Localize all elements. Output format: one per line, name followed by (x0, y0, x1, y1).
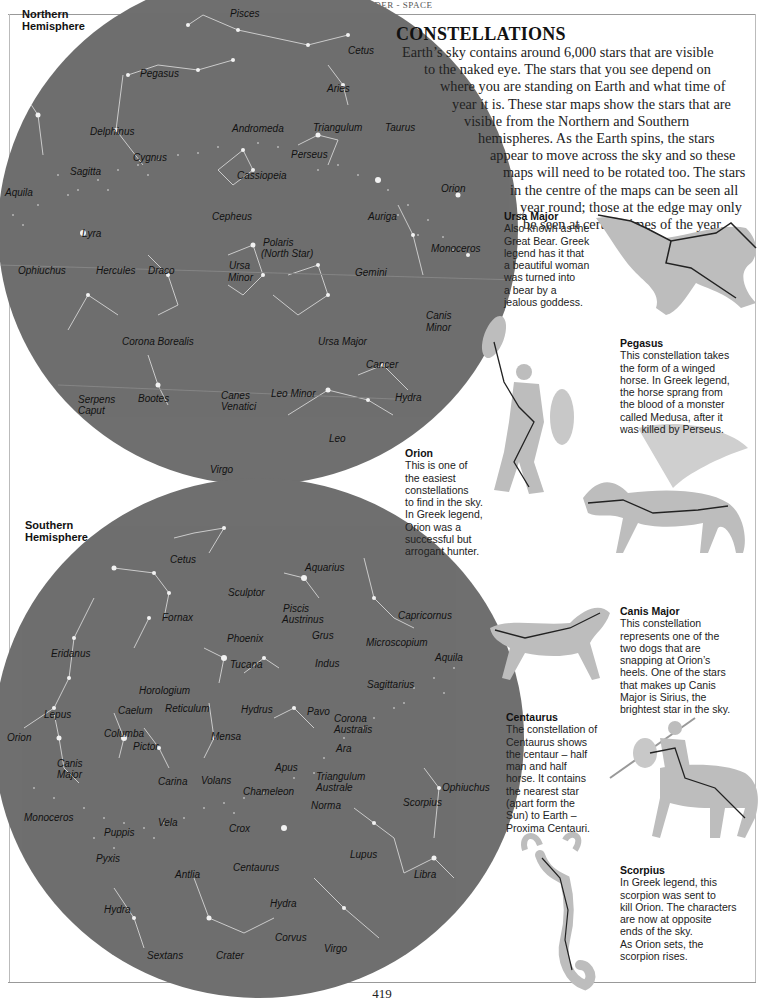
caption-line: the horse sprang from (620, 386, 730, 398)
intro-line: to the naked eye. The stars that you see… (424, 61, 711, 78)
constellation-label: Horologium (139, 685, 190, 696)
constellation-label: Perseus (291, 149, 328, 160)
constellation-label: Sculptor (228, 587, 265, 598)
constellation-label: Pisces (230, 8, 259, 19)
constellation-label: Corvus (275, 932, 307, 943)
intro-line: Earth’s sky contains around 6,000 stars … (402, 44, 714, 61)
constellation-label: Caput (78, 405, 105, 416)
canis-major-dog-illustration (480, 598, 620, 688)
caption-canis-major: Canis MajorThis constellationrepresents … (620, 605, 730, 716)
caption-line: legend has it that (504, 247, 589, 259)
bear-illustration (586, 203, 761, 333)
caption-line: This constellation takes (620, 349, 730, 361)
caption-line: to find in the sky. (405, 496, 483, 508)
constellation-label: Canis (426, 310, 452, 321)
constellation-label: Scorpius (403, 797, 442, 808)
constellation-label: Polaris (263, 237, 294, 248)
constellation-label: Aquila (5, 187, 33, 198)
caption-line: heels. One of the stars (620, 666, 730, 678)
constellation-label: Mensa (211, 731, 241, 742)
constellation-label: Hydra (270, 898, 297, 909)
constellation-label: Norma (311, 800, 341, 811)
caption-centaurus: CentaurusThe constellation ofCentaurus s… (506, 711, 597, 834)
constellation-label: Eridanus (51, 648, 90, 659)
caption-line: that makes up Canis (620, 679, 730, 691)
constellation-label: Leo Minor (271, 388, 315, 399)
constellation-label: Ophiuchus (18, 265, 66, 276)
constellation-label: Aquarius (305, 562, 344, 573)
constellation-label: Reticulum (165, 703, 209, 714)
caption-scorpius: ScorpiusIn Greek legend, thisscorpion wa… (620, 864, 737, 962)
north-label-line1: Northern (22, 8, 85, 20)
caption-pegasus: PegasusThis constellation takesthe form … (620, 337, 730, 435)
constellation-label: Taurus (385, 122, 415, 133)
caption-line: brightest star in the sky. (620, 703, 730, 715)
caption-line: was killed by Perseus. (620, 423, 730, 435)
intro-line: appear to move across the sky and so the… (490, 147, 735, 164)
constellation-label: Ara (336, 743, 352, 754)
constellation-label: Lepus (44, 709, 71, 720)
constellation-label: Pavo (307, 706, 330, 717)
caption-line: jealous goddess. (504, 296, 589, 308)
constellation-label: Austrinus (282, 614, 324, 625)
constellation-label: Centaurus (233, 862, 279, 873)
north-label-line2: Hemisphere (22, 20, 85, 32)
caption-line: Orion was a (405, 521, 483, 533)
caption-title: Ursa Major (504, 210, 589, 222)
intro-line: visible from the Northern and Southern (464, 113, 689, 130)
constellation-label: Monoceros (431, 243, 480, 254)
constellation-label: Tucana (230, 659, 263, 670)
constellation-label: Apus (275, 762, 298, 773)
constellation-label: Antlia (175, 869, 200, 880)
constellation-label: Columba (104, 728, 144, 739)
caption-line: The constellation of (506, 723, 597, 735)
constellation-label: Pictor (133, 741, 159, 752)
constellation-label: Pyxis (96, 853, 120, 864)
caption-line: man and half (506, 760, 597, 772)
intro-line: hemispheres. As the Earth spins, the sta… (478, 130, 715, 147)
constellation-label: Australis (334, 724, 372, 735)
constellation-label: Major (57, 769, 82, 780)
constellation-label: Lyra (82, 228, 101, 239)
caption-line: In Greek legend, (405, 508, 483, 520)
constellation-label: Hydrus (241, 704, 273, 715)
constellation-label: Sextans (147, 950, 183, 961)
constellation-label: Virgo (324, 943, 347, 954)
constellation-label: Corona Borealis (122, 336, 194, 347)
caption-line: successful but (405, 533, 483, 545)
constellation-label: Capricornus (398, 610, 452, 621)
caption-orion: OrionThis is one ofthe easiestconstellat… (405, 447, 483, 558)
caption-line: the centaur – half (506, 748, 597, 760)
caption-line: This is one of (405, 459, 483, 471)
caption-line: was turned into (504, 271, 589, 283)
caption-ursa-major: Ursa MajorAlso known as theGreat Bear. G… (504, 210, 589, 308)
constellation-label: Sagitta (70, 166, 101, 177)
constellation-label: Cetus (348, 45, 374, 56)
caption-line: represents one of the (620, 630, 730, 642)
constellation-label: (North Star) (261, 248, 313, 259)
constellation-label: Cetus (170, 554, 196, 565)
caption-line: ends of the sky. (620, 925, 737, 937)
caption-line: are now at opposite (620, 913, 737, 925)
constellation-label: Monoceros (24, 812, 73, 823)
intro-line: year it is. These star maps show the sta… (452, 96, 731, 113)
intro-line: in the centre of the maps can be seen al… (510, 182, 738, 199)
constellation-label: Delphinus (90, 126, 134, 137)
page-number: 419 (0, 986, 764, 1002)
caption-line: In Greek legend, this (620, 876, 737, 888)
constellation-label: Orion (7, 732, 31, 743)
caption-line: the form of a winged (620, 362, 730, 374)
constellation-label: Pegasus (140, 68, 179, 79)
constellation-label: Bootes (138, 393, 169, 404)
constellation-label: Canes (221, 390, 250, 401)
caption-line: the nearest star (506, 785, 597, 797)
caption-title: Centaurus (506, 711, 597, 723)
caption-line: This constellation (620, 617, 730, 629)
caption-line: the blood of a monster (620, 398, 730, 410)
constellation-label: Andromeda (232, 123, 284, 134)
caption-title: Canis Major (620, 605, 730, 617)
south-label-line1: Southern (25, 519, 88, 531)
caption-title: Orion (405, 447, 483, 459)
orion-hunter-illustration (474, 312, 584, 502)
caption-line: a bear by a (504, 284, 589, 296)
